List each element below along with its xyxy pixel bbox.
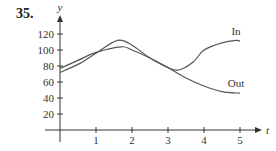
y-tick-label: 40 <box>43 92 55 104</box>
x-tick-label: 4 <box>201 134 207 146</box>
x-axis-arrow-icon <box>255 127 262 133</box>
y-tick-label: 60 <box>43 76 55 88</box>
y-tick-label: 20 <box>43 108 55 120</box>
x-axis-label: t <box>266 124 270 136</box>
curves <box>60 40 240 93</box>
line-chart: 1234520406080100120ytInOut <box>0 0 276 151</box>
y-tick-label: 80 <box>43 60 55 72</box>
x-tick-label: 3 <box>165 134 171 146</box>
series-label-in: In <box>231 25 241 37</box>
x-tick-label: 2 <box>129 134 135 146</box>
series-label-out: Out <box>228 77 245 89</box>
labels: 1234520406080100120ytInOut <box>38 1 271 146</box>
series-out-line <box>60 47 240 93</box>
x-tick-label: 5 <box>237 134 243 146</box>
x-tick-label: 1 <box>93 134 99 146</box>
y-tick-label: 120 <box>38 28 55 40</box>
y-axis-arrow-icon <box>57 15 63 22</box>
y-tick-label: 100 <box>38 44 55 56</box>
y-axis-label: y <box>57 1 63 13</box>
